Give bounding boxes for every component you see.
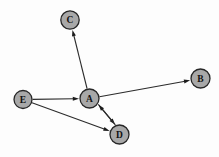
graph-node-c[interactable]: C [61,11,79,29]
graph-node-a[interactable]: A [80,89,99,108]
edge-e-to-a [33,99,74,100]
graph-node-d[interactable]: D [110,125,129,144]
arrowhead-a-to-c [72,30,76,37]
edges-layer [32,30,190,131]
node-circle-d[interactable] [110,125,129,144]
graph-node-e[interactable]: E [14,91,32,109]
arrowhead-e-to-d [103,127,110,131]
arrowhead-a-to-b [184,79,190,83]
edge-d-to-a [102,109,116,125]
arrowhead-e-to-a [73,97,79,101]
nodes-layer: CBEAD [14,11,210,144]
graph-svg-surface: CBEAD [0,0,219,157]
graph-diagram: CBEAD [0,0,219,157]
edge-a-to-b [99,81,185,96]
graph-node-b[interactable]: B [191,69,210,88]
node-circle-c[interactable] [61,11,79,29]
node-circle-b[interactable] [191,69,210,88]
node-circle-a[interactable] [80,89,99,108]
node-circle-e[interactable] [14,91,32,109]
edge-a-to-c [74,35,87,89]
